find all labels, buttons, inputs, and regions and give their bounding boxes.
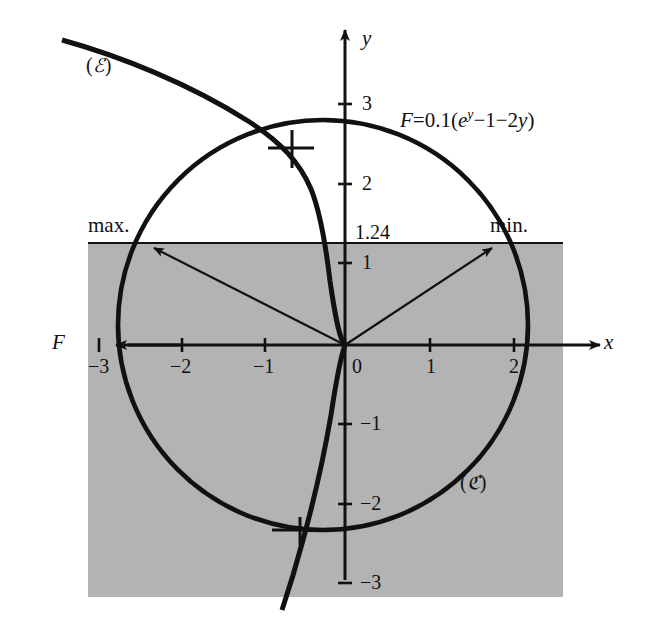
- x-tick-label-neg3: −3: [88, 356, 109, 376]
- formula-close: ): [527, 108, 534, 132]
- curve-s-letter: ℰ: [93, 54, 105, 76]
- y-axis-label: y: [362, 28, 371, 49]
- y-tick-label-1: 1: [362, 252, 372, 272]
- origin-label: 0: [352, 356, 362, 376]
- curve-s-label: (ℰ): [86, 55, 111, 75]
- curve-s-paren-open: (: [86, 54, 93, 76]
- formula-exp-base: e: [458, 108, 467, 132]
- shaded-region: [88, 243, 563, 597]
- y-tick-label-neg1: −1: [360, 413, 381, 433]
- x-axis-label: x: [604, 332, 613, 353]
- x-tick-label-2: 2: [509, 356, 519, 376]
- min-label: min.: [490, 215, 528, 236]
- x-tick-label-1: 1: [426, 356, 436, 376]
- x-tick-label-neg2: −2: [170, 356, 191, 376]
- curve-s-paren-close: ): [105, 54, 112, 76]
- formula-lhs: F: [400, 108, 413, 132]
- max-label: max.: [88, 215, 129, 236]
- y-tick-label-neg3: −3: [360, 572, 381, 592]
- curve-c-letter: ℭ: [467, 471, 480, 493]
- f-axis-label: F: [52, 332, 65, 353]
- figure-container: y x F 3 2 1 −1 −2 −3 −3 −2 −1 0 1 2 1.24…: [0, 0, 646, 632]
- formula-coefficient: 0.1(: [425, 108, 458, 132]
- formula-rest: −1−2: [473, 108, 518, 132]
- y-tick-label-2: 2: [362, 173, 372, 193]
- curve-c-paren-open: (: [460, 471, 467, 493]
- x-tick-label-neg1: −1: [253, 356, 274, 376]
- y-tick-label-3: 3: [362, 93, 372, 113]
- figure-canvas: [0, 0, 646, 632]
- y-tick-label-neg2: −2: [360, 493, 381, 513]
- tangency-marker-top: [268, 130, 314, 168]
- level-value-label: 1.24: [355, 222, 390, 242]
- formula-label: F=0.1(ey−1−2y): [400, 108, 534, 131]
- curve-c-paren-close: ): [480, 471, 487, 493]
- formula-eq: =: [413, 108, 425, 132]
- curve-c-label: (ℭ): [460, 472, 486, 492]
